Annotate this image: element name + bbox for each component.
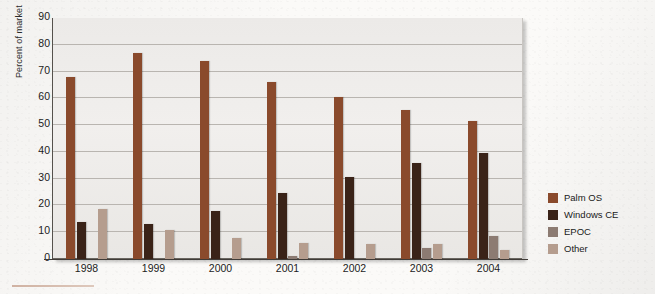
bar (98, 209, 107, 259)
legend-item: Other (548, 241, 618, 256)
bar (401, 110, 410, 259)
bar (500, 250, 509, 259)
legend-swatch-icon (548, 227, 558, 237)
bar (232, 238, 241, 259)
y-tick-label: 40 (38, 144, 50, 156)
bar (489, 236, 498, 259)
bar (412, 163, 421, 259)
y-tick-label: 20 (38, 197, 50, 209)
bar-group (388, 18, 455, 259)
x-tick-label: 2003 (410, 262, 433, 274)
legend-label: Palm OS (564, 192, 602, 203)
x-tick-label: 2002 (343, 262, 366, 274)
x-tick-label: 2004 (477, 262, 500, 274)
bar (345, 177, 354, 259)
bar (77, 222, 86, 259)
bar (433, 244, 442, 259)
legend-swatch-icon (548, 193, 558, 203)
bar (66, 77, 75, 259)
bar (299, 243, 308, 259)
bar (366, 244, 375, 259)
bar-group (455, 18, 522, 259)
caption-rule (12, 285, 94, 287)
x-axis-tick-labels: 1998199920002001200220032004 (53, 262, 523, 280)
bar (144, 224, 153, 259)
y-axis-tick-labels: 0102030405060708090 (24, 16, 50, 264)
chart-legend: Palm OSWindows CEEPOCOther (548, 190, 618, 258)
bar (267, 82, 276, 259)
y-tick-label: 30 (38, 171, 50, 183)
bar (334, 97, 343, 259)
x-tick-label: 1999 (142, 262, 165, 274)
bar-group (187, 18, 254, 259)
bar-group (53, 18, 120, 259)
chart-page: Percent of market 0102030405060708090 19… (0, 0, 655, 294)
y-tick-label: 80 (38, 37, 50, 49)
bar (133, 53, 142, 259)
y-tick-label: 10 (38, 224, 50, 236)
bar-group (254, 18, 321, 259)
bar (479, 153, 488, 259)
legend-item: Palm OS (548, 190, 618, 205)
bar-group (321, 18, 388, 259)
bar (278, 193, 287, 259)
legend-label: Other (564, 243, 588, 254)
plot-area-wrapper (53, 18, 523, 259)
x-axis-line (44, 259, 528, 260)
x-tick-label: 2001 (276, 262, 299, 274)
bar (422, 248, 431, 259)
bar (165, 230, 174, 259)
x-tick-label: 2000 (209, 262, 232, 274)
y-tick-label: 90 (38, 10, 50, 22)
legend-swatch-icon (548, 210, 558, 220)
legend-item: Windows CE (548, 207, 618, 222)
legend-label: EPOC (564, 226, 591, 237)
y-axis-line (52, 18, 53, 260)
y-tick-label: 60 (38, 90, 50, 102)
y-tick-label: 50 (38, 117, 50, 129)
legend-swatch-icon (548, 244, 558, 254)
legend-item: EPOC (548, 224, 618, 239)
y-tick-label: 70 (38, 64, 50, 76)
bar-group (120, 18, 187, 259)
x-tick-label: 1998 (75, 262, 98, 274)
bar (468, 121, 477, 259)
plot-area (53, 18, 523, 259)
bar (200, 61, 209, 259)
y-tick-label: 0 (44, 251, 50, 263)
legend-label: Windows CE (564, 209, 618, 220)
bar (211, 211, 220, 259)
y-axis-title: Percent of market (14, 5, 24, 78)
